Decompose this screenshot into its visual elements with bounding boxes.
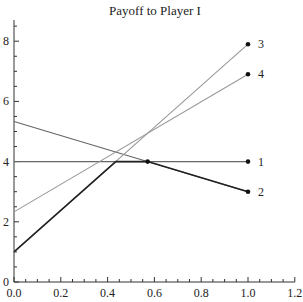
data-point-marker [246,42,251,47]
series-label-1: 1 [258,155,264,169]
chart-title: Payoff to Player I [109,3,201,18]
payoff-chart: Payoff to Player I 0.00.20.40.60.81.01.2… [0,0,303,302]
y-tick-label: 0 [3,275,9,289]
series-label-2: 2 [258,185,264,199]
y-tick-label: 6 [3,94,9,108]
data-point-marker [246,72,251,77]
series-label-4: 4 [258,67,264,81]
envelope-line [14,162,248,252]
y-tick-label: 8 [3,34,9,48]
y-tick-label: 4 [3,155,9,169]
series-line-4 [14,74,248,212]
x-tick-label: 1.0 [241,286,256,300]
x-tick-label: 0.8 [194,286,209,300]
x-tick-label: 1.2 [287,286,302,300]
x-tick-label: 0.6 [147,286,162,300]
x-tick-label: 0.2 [53,286,68,300]
data-point-marker [246,159,251,164]
data-point-marker [246,189,251,194]
markers [145,42,250,194]
data-point-marker [145,159,150,164]
line-labels: 1234 [258,37,264,198]
lower-envelope [14,162,248,252]
y-tick-label: 2 [3,215,9,229]
series-label-3: 3 [258,37,264,51]
x-tick-label: 0.4 [100,286,115,300]
